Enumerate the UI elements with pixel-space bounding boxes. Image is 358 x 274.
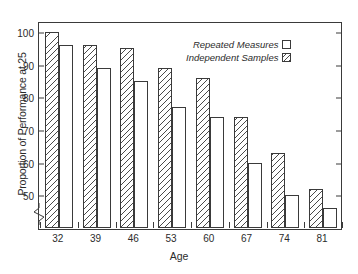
bar-group — [304, 24, 342, 228]
bar — [172, 107, 186, 228]
bar-group — [40, 24, 78, 228]
x-axis-tick-label: 39 — [90, 233, 101, 244]
x-axis-tick-label: 46 — [128, 233, 139, 244]
x-axis-title: Age — [0, 250, 358, 262]
bar — [309, 189, 323, 228]
bar — [134, 81, 148, 228]
y-axis-tick-label: 80 — [23, 93, 39, 104]
bar — [234, 117, 248, 228]
bar-chart-figure: Proportion of Performance at 25 50607080… — [0, 0, 358, 274]
y-axis-tick-mark-right — [336, 65, 341, 66]
x-axis-tick-mark — [78, 222, 79, 228]
x-axis-tick-mark — [342, 222, 343, 228]
y-axis-tick-mark-right — [336, 196, 341, 197]
y-axis-tick-label: 70 — [23, 125, 39, 136]
bar — [59, 45, 73, 228]
bar — [120, 48, 134, 228]
y-axis-tick-mark-right — [336, 130, 341, 131]
y-axis-tick-mark-right — [336, 32, 341, 33]
bar-group — [116, 24, 154, 228]
bar — [248, 163, 262, 228]
bar-group — [78, 24, 116, 228]
bar — [158, 68, 172, 228]
x-axis-tick-label: 32 — [52, 233, 63, 244]
legend-item-repeated-measures: Repeated Measures — [186, 38, 291, 51]
legend-item-independent-samples: Independent Samples — [186, 51, 291, 64]
bar — [45, 32, 59, 228]
x-axis-tick-label: 74 — [279, 233, 290, 244]
bar — [323, 208, 337, 228]
y-axis-tick-mark-right — [336, 163, 341, 164]
bar — [97, 68, 111, 228]
hatched-square-icon — [282, 53, 291, 62]
bar — [271, 153, 285, 228]
y-axis-tick-label: 60 — [23, 158, 39, 169]
x-axis-tick-label: 67 — [241, 233, 252, 244]
y-axis-tick-label: 100 — [17, 27, 39, 38]
y-axis-tick-mark — [39, 130, 44, 131]
legend-label-independent-samples: Independent Samples — [186, 52, 278, 63]
y-axis-tick-mark — [39, 32, 44, 33]
bar — [210, 117, 224, 228]
y-axis-break-icon — [32, 203, 46, 225]
y-axis-tick-mark — [39, 163, 44, 164]
x-axis-tick-mark — [153, 222, 154, 228]
x-axis-tick-label: 60 — [203, 233, 214, 244]
y-axis-tick-label: 50 — [23, 191, 39, 202]
y-axis-tick-mark-right — [336, 98, 341, 99]
bar — [196, 78, 210, 228]
x-axis-tick-mark — [267, 222, 268, 228]
legend-label-repeated-measures: Repeated Measures — [193, 39, 279, 50]
x-axis-tick-label: 81 — [317, 233, 328, 244]
x-axis-tick-mark — [191, 222, 192, 228]
y-axis-tick-mark — [39, 196, 44, 197]
y-axis-tick-mark — [39, 98, 44, 99]
x-axis-tick-mark — [304, 222, 305, 228]
chart-legend: Repeated Measures Independent Samples — [186, 38, 291, 64]
open-square-icon — [282, 40, 291, 49]
y-axis-tick-label: 90 — [23, 60, 39, 71]
x-axis-tick-mark — [229, 222, 230, 228]
bar — [285, 195, 299, 228]
x-axis-tick-mark — [116, 222, 117, 228]
x-axis-tick-label: 53 — [166, 233, 177, 244]
bar — [83, 45, 97, 228]
y-axis-tick-mark — [39, 65, 44, 66]
